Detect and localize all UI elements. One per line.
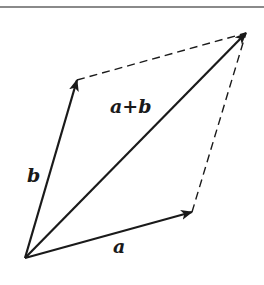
vector-a-arrow <box>25 212 192 258</box>
label-a: a <box>113 235 125 257</box>
dashed-edge-b-to-sum <box>77 33 246 80</box>
label-a-plus-b: a+b <box>110 95 152 117</box>
vector-addition-diagram: a b a+b <box>0 0 264 285</box>
label-b: b <box>27 164 40 186</box>
